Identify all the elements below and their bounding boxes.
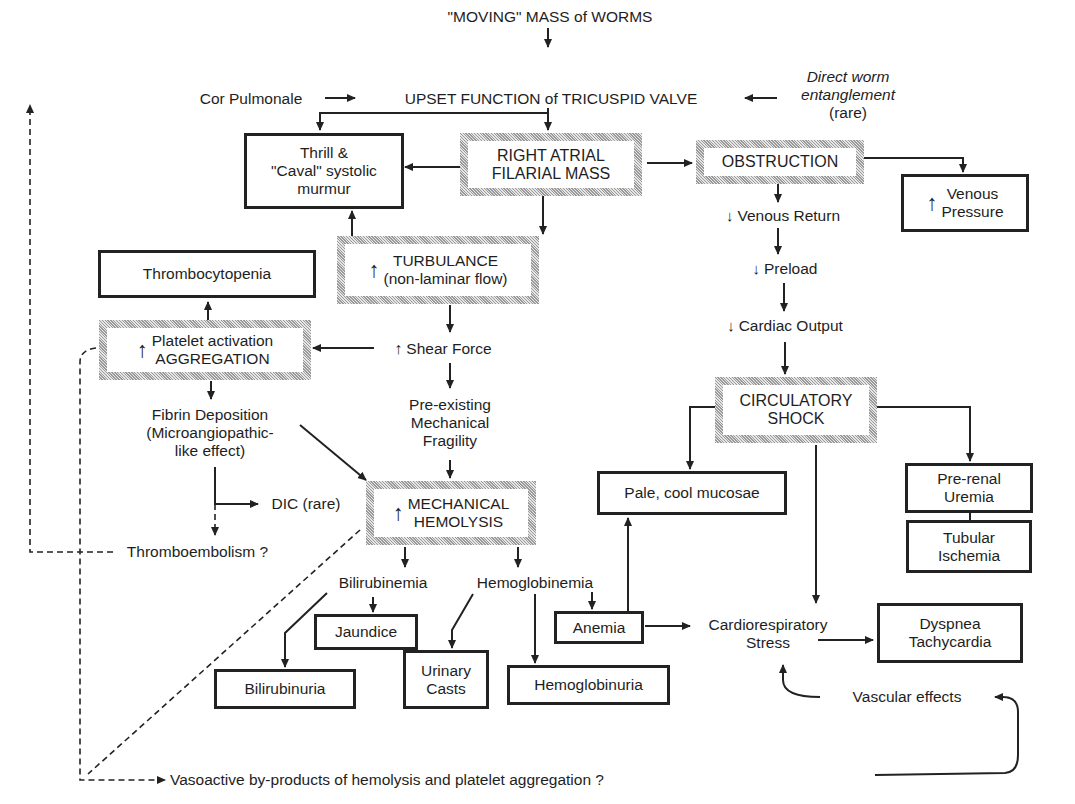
thrill-line1: Thrill & bbox=[300, 144, 348, 162]
direct-worm-line3: (rare) bbox=[829, 104, 867, 122]
fibrin-line1: Fibrin Deposition bbox=[152, 406, 268, 424]
tubular-line1: Tubular bbox=[943, 529, 995, 547]
pre-existing-line3: Fragility bbox=[423, 432, 477, 450]
circulatory-shock-box: CIRCULATORY SHOCK bbox=[715, 377, 877, 443]
hemolysis-line1: MECHANICAL bbox=[408, 495, 510, 513]
platelet-aggregation-box: ↑ Platelet activation AGGREGATION bbox=[99, 320, 311, 380]
cardiac-output-label: Cardiac Output bbox=[739, 317, 843, 335]
dyspnea-tachycardia-box: Dyspnea Tachycardia bbox=[877, 603, 1023, 663]
preload-label: Preload bbox=[764, 260, 817, 278]
urinary-casts-line1: Urinary bbox=[421, 662, 471, 680]
venous-pressure-line1: Venous bbox=[947, 185, 999, 203]
tubular-ischemia-box: Tubular Ischemia bbox=[906, 520, 1032, 573]
pre-renal-line2: Uremia bbox=[944, 488, 994, 506]
pre-existing-line1: Pre-existing bbox=[409, 396, 491, 414]
preload: ↓ Preload bbox=[725, 257, 845, 281]
platelet-line1: Platelet activation bbox=[152, 332, 274, 350]
increase-arrow-icon: ↑ bbox=[394, 340, 402, 358]
direct-worm-line2: entanglement bbox=[801, 86, 895, 104]
increase-arrow-icon: ↑ bbox=[393, 504, 404, 522]
right-atrial-line1: RIGHT ATRIAL bbox=[497, 147, 605, 165]
hemolysis-line2: HEMOLYSIS bbox=[414, 513, 503, 531]
turbulance-box: ↑ TURBULANCE (non-laminar flow) bbox=[337, 236, 539, 304]
turbulance-line1: TURBULANCE bbox=[393, 252, 498, 270]
shock-line1: CIRCULATORY bbox=[740, 392, 853, 410]
dyspnea-line1: Dyspnea bbox=[919, 615, 980, 633]
turbulance-line2: (non-laminar flow) bbox=[383, 270, 507, 288]
cardiorespiratory-stress: Cardiorespiratory Stress bbox=[693, 612, 843, 656]
direct-worm-entanglement: Direct worm entanglement (rare) bbox=[778, 64, 918, 126]
pre-existing-line2: Mechanical bbox=[411, 414, 489, 432]
urinary-casts-box: Urinary Casts bbox=[403, 650, 489, 709]
direct-worm-line1: Direct worm bbox=[807, 68, 890, 86]
jaundice-box: Jaundice bbox=[314, 614, 418, 650]
hemoglobinuria-box: Hemoglobinuria bbox=[507, 665, 670, 705]
fibrin-line3: like effect) bbox=[175, 442, 245, 460]
shear-force: ↑ Shear Force bbox=[378, 337, 508, 361]
thromboembolism: Thromboembolism ? bbox=[115, 541, 280, 563]
pre-renal-uremia-box: Pre-renal Uremia bbox=[905, 463, 1033, 513]
right-atrial-filarial-mass-box: RIGHT ATRIAL FILARIAL MASS bbox=[460, 133, 642, 196]
bilirubinuria-box: Bilirubinuria bbox=[214, 669, 356, 709]
cardiac-output: ↓ Cardiac Output bbox=[700, 314, 870, 338]
cardiorespiratory-line1: Cardiorespiratory bbox=[709, 616, 828, 634]
tubular-line2: Ischemia bbox=[938, 547, 1000, 565]
dic-rare: DIC (rare) bbox=[260, 493, 352, 515]
venous-pressure-box: ↑ Venous Pressure bbox=[901, 174, 1029, 232]
increase-arrow-icon: ↑ bbox=[368, 261, 379, 279]
moving-mass-of-worms: "MOVING" MASS of WORMS bbox=[405, 6, 695, 28]
vascular-effects: Vascular effects bbox=[822, 686, 992, 708]
thrill-line2: "Caval" systolic bbox=[271, 162, 377, 180]
thrill-line3: murmur bbox=[297, 180, 350, 198]
cardiorespiratory-line2: Stress bbox=[746, 634, 790, 652]
pale-cool-mucosae-box: Pale, cool mucosae bbox=[597, 471, 787, 515]
fibrin-deposition: Fibrin Deposition (Microangiopathic- lik… bbox=[120, 402, 300, 464]
hemoglobinemia: Hemoglobinemia bbox=[460, 572, 610, 594]
obstruction-box: OBSTRUCTION bbox=[696, 140, 864, 184]
venous-pressure-line2: Pressure bbox=[941, 203, 1003, 221]
platelet-line2: AGGREGATION bbox=[155, 350, 269, 368]
pre-renal-line1: Pre-renal bbox=[937, 470, 1001, 488]
pathophysiology-flowchart: "MOVING" MASS of WORMS Cor Pulmonale UPS… bbox=[0, 0, 1075, 804]
bilirubinemia: Bilirubinemia bbox=[318, 572, 448, 594]
shock-line2: SHOCK bbox=[768, 410, 825, 428]
thrombocytopenia-box: Thrombocytopenia bbox=[98, 250, 316, 298]
right-atrial-line2: FILARIAL MASS bbox=[492, 165, 611, 183]
decrease-arrow-icon: ↓ bbox=[727, 317, 735, 335]
increase-arrow-icon: ↑ bbox=[926, 194, 937, 212]
dyspnea-line2: Tachycardia bbox=[909, 633, 992, 651]
mechanical-hemolysis-box: ↑ MECHANICAL HEMOLYSIS bbox=[366, 481, 536, 545]
pre-existing-mechanical-fragility: Pre-existing Mechanical Fragility bbox=[385, 390, 515, 456]
venous-return-label: Venous Return bbox=[737, 207, 840, 225]
thrill-caval-murmur-box: Thrill & "Caval" systolic murmur bbox=[244, 133, 404, 209]
urinary-casts-line2: Casts bbox=[426, 680, 466, 698]
upset-tricuspid-valve: UPSET FUNCTION of TRICUSPID VALVE bbox=[358, 88, 744, 110]
fibrin-line2: (Microangiopathic- bbox=[146, 424, 274, 442]
anemia-box: Anemia bbox=[554, 611, 644, 644]
venous-return: ↓ Venous Return bbox=[698, 204, 868, 228]
decrease-arrow-icon: ↓ bbox=[726, 207, 734, 225]
increase-arrow-icon: ↑ bbox=[137, 341, 148, 359]
decrease-arrow-icon: ↓ bbox=[753, 260, 761, 278]
vasoactive-by-products: Vasoactive by-products of hemolysis and … bbox=[170, 768, 870, 792]
shear-force-label: Shear Force bbox=[406, 340, 491, 358]
cor-pulmonale: Cor Pulmonale bbox=[176, 88, 326, 110]
